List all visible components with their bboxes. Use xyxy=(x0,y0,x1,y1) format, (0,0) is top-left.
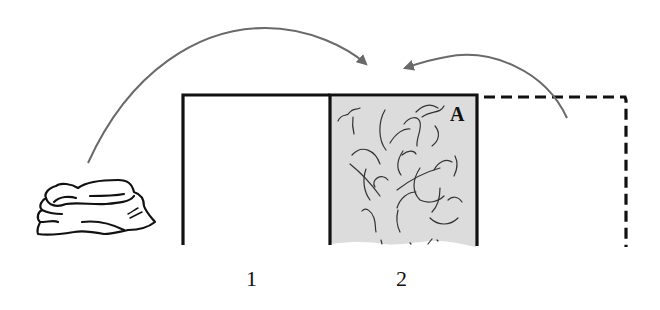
bay-1 xyxy=(183,95,330,245)
diagram-canvas xyxy=(0,0,660,310)
bay-1-label: 1 xyxy=(246,268,257,290)
region-label-a: A xyxy=(450,104,464,124)
bay-2-label: 2 xyxy=(396,268,407,290)
material-pile-icon xyxy=(37,180,155,235)
bay-3-dashed xyxy=(484,97,626,247)
